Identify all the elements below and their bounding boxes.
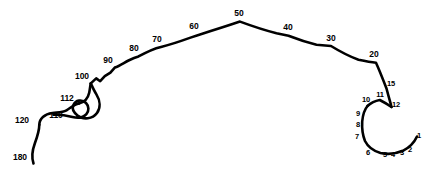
station-label-7: 7 <box>355 133 359 141</box>
profile-curve-figure: 180 120 110 112 100 90 80 70 60 50 40 30… <box>0 0 428 170</box>
station-label-120: 120 <box>15 116 29 125</box>
station-label-11: 11 <box>376 91 384 99</box>
station-label-12: 12 <box>392 101 400 109</box>
station-label-20: 20 <box>369 50 378 59</box>
station-label-90: 90 <box>103 56 112 65</box>
station-label-8: 8 <box>356 121 360 129</box>
station-label-5: 5 <box>383 151 387 159</box>
station-label-4: 4 <box>391 151 395 159</box>
station-label-6: 6 <box>366 149 370 157</box>
station-label-2: 2 <box>408 146 412 154</box>
station-label-3: 3 <box>400 149 404 157</box>
station-label-180: 180 <box>13 153 27 162</box>
station-label-112: 112 <box>60 94 73 103</box>
profile-curve-plot <box>0 0 428 170</box>
station-label-100: 100 <box>75 72 89 81</box>
station-label-80: 80 <box>129 44 138 53</box>
station-label-60: 60 <box>189 22 198 31</box>
station-label-1: 1 <box>417 132 421 140</box>
station-label-10: 10 <box>362 96 370 104</box>
station-label-40: 40 <box>283 23 292 32</box>
plot-background <box>0 0 428 170</box>
station-label-50: 50 <box>234 9 243 18</box>
station-label-9: 9 <box>356 110 360 118</box>
station-label-15: 15 <box>387 80 395 88</box>
station-label-30: 30 <box>326 34 335 43</box>
station-label-70: 70 <box>152 35 161 44</box>
station-label-110: 110 <box>49 111 62 120</box>
